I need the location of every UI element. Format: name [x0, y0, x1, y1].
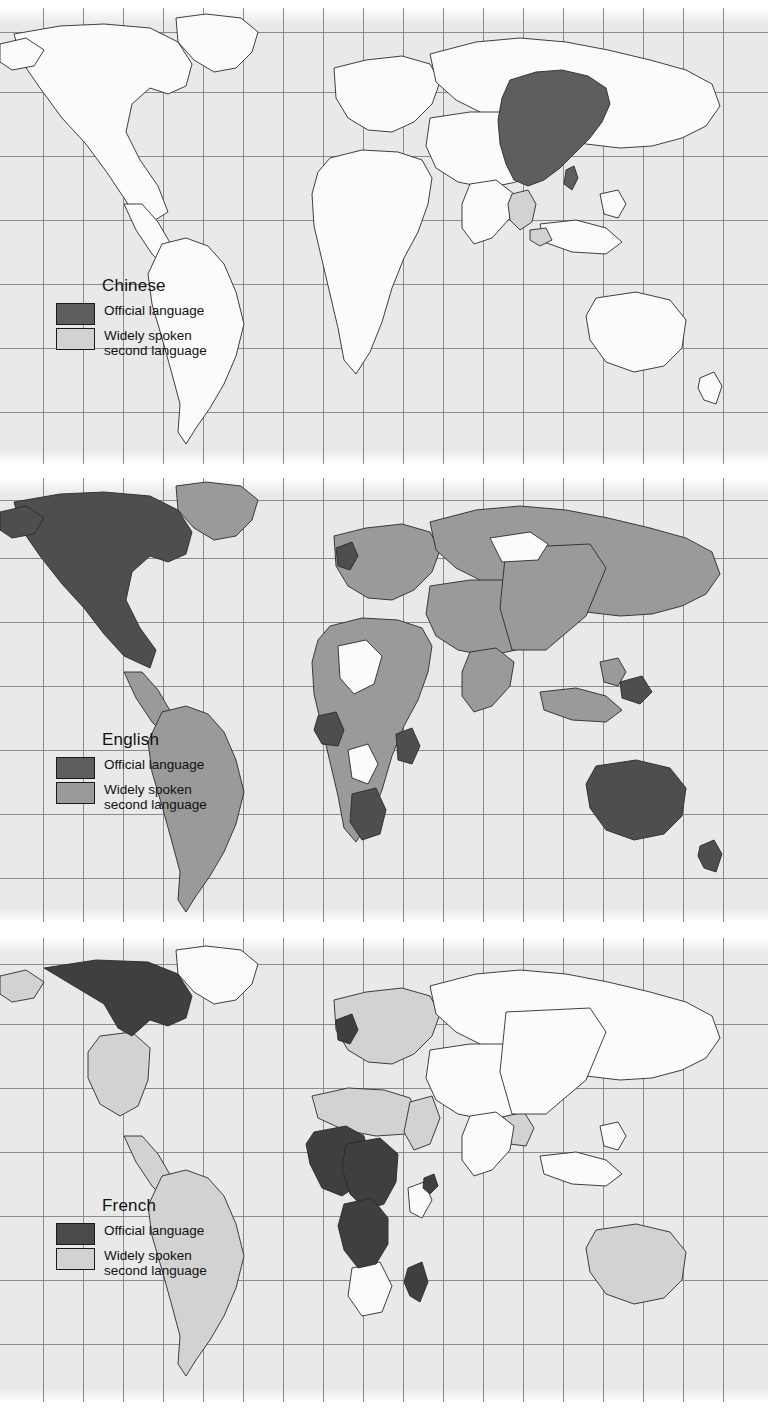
map-panel-chinese: Chinese Official language Widely spoken …: [0, 8, 768, 464]
legend-english: English Official language Widely spoken …: [56, 730, 207, 815]
legend-language-title: Chinese: [56, 276, 207, 296]
legend-label-second-line2: second language: [104, 1264, 207, 1279]
legend-label-second-line2: second language: [104, 798, 207, 813]
region-madagascar-official: [404, 1262, 428, 1302]
region-central-africa-official: [338, 1198, 388, 1268]
region-egypt-second: [404, 1096, 440, 1150]
region-indonesia-second: [540, 688, 622, 722]
second-language-regions-chinese: [508, 190, 552, 246]
world-language-maps-figure: Chinese Official language Widely spoken …: [0, 0, 768, 1421]
region-africa: [312, 150, 432, 374]
region-indonesia: [540, 220, 622, 254]
legend-row-official: Official language: [56, 1223, 207, 1245]
region-india: [462, 180, 514, 244]
region-papua-new-guinea-official: [620, 676, 652, 704]
legend-label-second-line1: Widely spoken: [104, 783, 207, 798]
region-australia-second: [586, 1224, 686, 1304]
region-new-zealand: [698, 372, 722, 404]
map-panel-english: English Official language Widely spoken …: [0, 478, 768, 922]
legend-swatch-second: [56, 1248, 95, 1270]
legend-swatch-second: [56, 782, 95, 804]
region-indochina-second: [508, 190, 536, 230]
region-philippines-unshaded: [600, 1122, 626, 1150]
map-panel-french: French Official language Widely spoken s…: [0, 938, 768, 1402]
region-canada-official: [44, 960, 192, 1036]
legend-row-official: Official language: [56, 303, 207, 325]
region-china-official: [498, 70, 610, 186]
legend-swatch-second: [56, 328, 95, 350]
legend-label-official: Official language: [104, 757, 204, 773]
legend-row-second: Widely spoken second language: [56, 328, 207, 358]
legend-label-second-line1: Widely spoken: [104, 329, 207, 344]
region-indonesia-unshaded: [540, 1152, 622, 1186]
region-india-second: [462, 648, 514, 712]
legend-label-second: Widely spoken second language: [104, 782, 207, 812]
region-europe: [334, 56, 440, 132]
world-landmass-english: [0, 478, 768, 922]
region-india-unshaded: [462, 1112, 514, 1176]
region-australia-official: [586, 760, 686, 840]
region-australia: [586, 292, 686, 372]
region-new-zealand-official: [698, 840, 722, 872]
region-philippines: [600, 190, 626, 218]
legend-french: French Official language Widely spoken s…: [56, 1196, 207, 1281]
legend-label-official: Official language: [104, 303, 204, 319]
region-east-africa-official: [396, 728, 420, 764]
world-landmass-french: [0, 938, 768, 1402]
legend-swatch-official: [56, 1223, 95, 1245]
legend-row-official: Official language: [56, 757, 207, 779]
legend-chinese: Chinese Official language Widely spoken …: [56, 276, 207, 361]
legend-language-title: English: [56, 730, 207, 750]
region-china-unshaded: [500, 1008, 606, 1114]
legend-language-title: French: [56, 1196, 207, 1216]
region-north-africa-second: [312, 1088, 418, 1136]
legend-label-official: Official language: [104, 1223, 204, 1239]
official-language-regions-chinese: [498, 70, 610, 190]
legend-label-second-line2: second language: [104, 344, 207, 359]
region-taiwan-official: [564, 166, 578, 190]
legend-swatch-official: [56, 757, 95, 779]
legend-row-second: Widely spoken second language: [56, 1248, 207, 1278]
region-usa-second: [88, 1032, 150, 1116]
region-alaska-second: [0, 970, 44, 1002]
world-landmass-chinese: [0, 8, 768, 464]
legend-swatch-official: [56, 303, 95, 325]
legend-label-second: Widely spoken second language: [104, 328, 207, 358]
legend-label-second: Widely spoken second language: [104, 1248, 207, 1278]
legend-label-second-line1: Widely spoken: [104, 1249, 207, 1264]
region-southern-africa-unshaded: [348, 1262, 392, 1316]
legend-row-second: Widely spoken second language: [56, 782, 207, 812]
